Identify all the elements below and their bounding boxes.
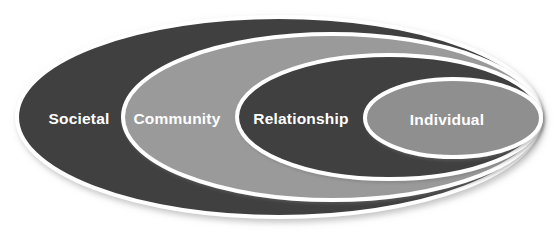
ring-label-community: Community	[133, 110, 220, 127]
nested-ellipses-canvas: Societal Community Relationship Individu…	[0, 0, 560, 233]
social-ecological-model-diagram: Societal Community Relationship Individu…	[0, 0, 560, 233]
ring-label-societal: Societal	[48, 110, 109, 127]
ring-label-relationship: Relationship	[253, 110, 348, 127]
ring-label-individual: Individual	[410, 111, 484, 128]
